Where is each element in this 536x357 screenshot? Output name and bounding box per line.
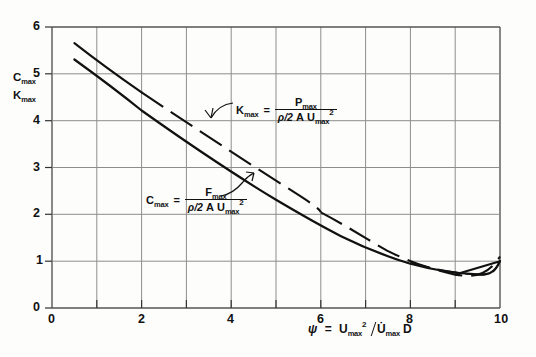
annot-kmax-denominator: ρ/2 AUmax2 — [275, 110, 337, 123]
x-tick-10: 10 — [494, 313, 508, 326]
x-title-denominator-sub: max — [386, 329, 400, 338]
leader-line-kmax — [205, 103, 233, 118]
annot-cmax-equals: = — [173, 194, 179, 206]
annot-cmax-u: U — [217, 201, 225, 213]
annot-cmax-numerator: Fmax — [185, 186, 247, 200]
annotation-kmax: Kmax = Pmax ρ/2 AUmax2 — [236, 96, 337, 123]
y-tick-1: 1 — [36, 254, 43, 267]
annot-kmax-equals: = — [263, 104, 269, 116]
annot-cmax-symbol: C — [146, 194, 154, 206]
x-title-numerator-sup: 2 — [362, 320, 366, 329]
chart-figure: 6 5 4 3 2 1 0 0 2 4 6 8 10 Cmax Kmax ψ =… — [0, 0, 536, 357]
annot-cmax-fraction: Fmax ρ/2 AUmax2 — [185, 186, 247, 213]
annot-kmax-symbol-group: Kmax — [236, 104, 258, 116]
y-tick-4: 4 — [33, 114, 40, 127]
psi-symbol: ψ — [308, 322, 317, 336]
series-kmax — [74, 43, 500, 276]
annot-kmax-area: A — [296, 111, 304, 123]
y-axis-title-line1: Cmax — [13, 72, 36, 84]
annot-cmax-numerator-sub: max — [212, 192, 226, 201]
x-title-numerator: U — [339, 322, 348, 336]
y-title-k-sub: max — [21, 95, 35, 104]
x-axis-title: ψ = Umax2 U̇maxD — [308, 322, 412, 336]
annot-kmax-symbol: K — [236, 104, 244, 116]
annot-cmax-denominator: ρ/2 AUmax2 — [185, 200, 247, 213]
y-tick-2: 2 — [33, 207, 40, 220]
annot-kmax-numerator: Pmax — [275, 96, 337, 110]
annot-cmax-u-sup: 2 — [239, 198, 243, 207]
x-tick-4: 4 — [227, 313, 234, 326]
x-title-fraction: Umax2 U̇maxD — [339, 322, 412, 336]
annot-cmax-symbol-sub: max — [154, 200, 168, 209]
annot-cmax-area: A — [206, 201, 214, 213]
x-title-slash — [371, 322, 377, 336]
y-tick-3: 3 — [33, 161, 40, 174]
x-title-denominator-tail: D — [403, 322, 412, 336]
annot-kmax-numerator-sub: max — [302, 102, 316, 111]
annot-cmax-rho: ρ/2 — [188, 201, 203, 213]
annotation-cmax: Cmax = Fmax ρ/2 AUmax2 — [146, 186, 247, 213]
annot-cmax-u-sub: max — [225, 207, 239, 216]
annot-cmax-numerator-text: F — [205, 186, 212, 198]
y-axis-title: Cmax Kmax — [13, 72, 36, 107]
y-axis-title-line2: Kmax — [13, 90, 36, 102]
annot-kmax-u-sub: max — [315, 117, 329, 126]
y-tick-0: 0 — [33, 301, 40, 314]
annot-kmax-u-sup: 2 — [329, 108, 333, 117]
x-title-numerator-sub: max — [348, 329, 362, 338]
annot-kmax-symbol-sub: max — [244, 110, 258, 119]
x-tick-0: 0 — [48, 313, 55, 326]
x-tick-2: 2 — [138, 313, 145, 326]
plot-canvas — [0, 0, 536, 357]
annot-kmax-rho: ρ/2 — [278, 111, 293, 123]
annot-kmax-u: U — [307, 111, 315, 123]
x-title-equals: = — [325, 322, 332, 336]
annot-kmax-fraction: Pmax ρ/2 AUmax2 — [275, 96, 337, 123]
annot-cmax-symbol-group: Cmax — [146, 194, 168, 206]
grid-lines — [52, 27, 500, 308]
x-title-denominator: U̇ — [377, 322, 386, 336]
y-tick-6: 6 — [33, 20, 40, 33]
y-title-c-sub: max — [21, 77, 35, 86]
